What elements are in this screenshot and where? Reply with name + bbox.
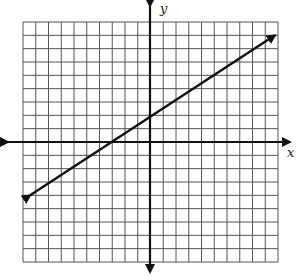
coordinate-plane	[0, 0, 300, 280]
x-axis-label: x	[287, 145, 294, 160]
y-axis-label: y	[160, 1, 167, 16]
axes	[8, 6, 290, 272]
